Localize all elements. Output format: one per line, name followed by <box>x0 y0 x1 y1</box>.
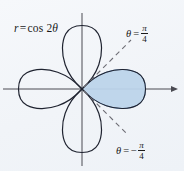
angle-positive-theta: θ <box>126 29 131 40</box>
angle-positive-denominator: 4 <box>141 34 148 44</box>
angle-negative-equals: = <box>123 146 129 157</box>
angle-negative-fraction: π 4 <box>138 141 145 161</box>
angle-negative-denominator: 4 <box>138 151 145 161</box>
angle-positive-equals: = <box>133 29 139 40</box>
x-axis-arrowhead <box>171 86 178 92</box>
angle-label-positive: θ = π 4 <box>126 24 148 44</box>
angle-negative-minus: − <box>131 146 137 157</box>
curve-equation-cos: cos <box>27 22 43 34</box>
shaded-petal-right <box>82 69 146 108</box>
angle-negative-theta: θ <box>116 146 121 157</box>
angle-label-negative: θ = − π 4 <box>116 141 145 161</box>
curve-equation-label: r=cos 2θ <box>14 23 58 35</box>
curve-equation-r: r <box>14 22 19 34</box>
angle-positive-numerator: π <box>141 24 148 34</box>
angle-negative-numerator: π <box>138 141 145 151</box>
polar-rose-figure: r=cos 2θ θ = π 4 θ = − π 4 <box>0 0 184 171</box>
angle-positive-fraction: π 4 <box>141 24 148 44</box>
curve-equation-theta: θ <box>52 22 58 34</box>
